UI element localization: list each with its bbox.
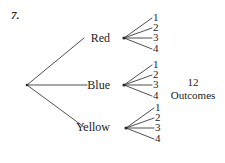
leaf-yellow-4: 4 [155, 133, 167, 144]
edge-red-to-1 [124, 18, 152, 38]
edge-yellow-to-1 [126, 108, 154, 128]
node-blue [122, 83, 125, 86]
edge-blue-to-4 [124, 85, 152, 96]
edge-blue-to-1 [124, 65, 152, 85]
edge-blue-to-2 [124, 75, 152, 85]
edge-red-to-4 [124, 38, 152, 49]
node-red [122, 36, 125, 39]
edge-root-to-red [27, 38, 84, 85]
leaf-red-4: 4 [153, 43, 165, 54]
branch-label-yellow: Yellow [55, 121, 110, 133]
problem-number: 7. [11, 10, 20, 21]
outcome-count: 12 [168, 77, 218, 88]
node-root [26, 84, 29, 87]
node-yellow [124, 126, 127, 129]
outcome-label: Outcomes [163, 90, 223, 101]
edge-yellow-to-2 [126, 118, 154, 128]
branch-label-red: Red [60, 32, 110, 44]
edge-red-to-2 [124, 28, 152, 38]
edge-yellow-to-4 [126, 128, 154, 139]
worksheet-figure: 7. Red Blue Yellow 1 2 3 4 1 2 3 4 1 2 3… [0, 0, 225, 163]
branch-label-blue: Blue [60, 79, 110, 91]
